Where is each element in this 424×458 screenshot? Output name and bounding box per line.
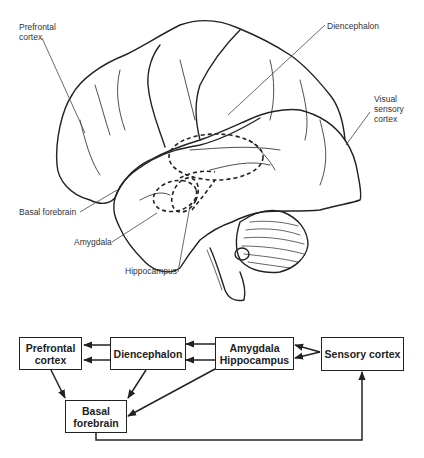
label-line: sensory <box>374 104 404 114</box>
label-visual-sensory-cortex: Visual sensory cortex <box>374 94 404 124</box>
node-label: Amygdala <box>229 342 279 354</box>
cerebrum-top <box>72 21 345 140</box>
node-sensory-cortex: Sensory cortex <box>321 337 404 371</box>
label-hippocampus: Hippocampus <box>125 266 177 276</box>
label-line: cortex <box>374 114 404 124</box>
node-prefrontal-cortex: Prefrontal cortex <box>19 337 82 370</box>
cerebellum-outline <box>236 210 308 272</box>
node-label: cortex <box>35 354 67 366</box>
node-label: Prefrontal <box>26 342 76 354</box>
brainstem <box>210 248 245 301</box>
label-amygdala: Amygdala <box>74 237 112 247</box>
label-line: Visual <box>374 94 404 104</box>
node-label: Basal <box>82 405 110 417</box>
brain-illustration <box>0 0 424 458</box>
label-diencephalon: Diencephalon <box>327 21 379 31</box>
node-label: Sensory cortex <box>325 348 401 360</box>
node-label: Hippocampus <box>220 354 289 366</box>
node-label: Diencephalon <box>114 348 183 360</box>
hippocampus-region <box>167 174 204 217</box>
node-basal-forebrain: Basal forebrain <box>65 400 127 433</box>
label-prefrontal-cortex: Prefrontal cortex <box>19 22 56 42</box>
label-line: cortex <box>19 32 56 42</box>
node-label: forebrain <box>73 417 119 429</box>
node-amygdala-hippocampus: Amygdala Hippocampus <box>215 337 294 370</box>
label-line: Prefrontal <box>19 22 56 32</box>
label-basal-forebrain: Basal forebrain <box>19 207 76 217</box>
node-diencephalon: Diencephalon <box>110 337 186 370</box>
diencephalon-region <box>169 134 263 180</box>
